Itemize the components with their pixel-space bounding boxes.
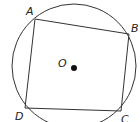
quadrilateral-abcd — [25, 19, 129, 111]
label-c: C — [121, 113, 129, 122]
label-b: B — [131, 22, 139, 35]
circle-diagram: O A B C D — [0, 0, 140, 122]
center-point — [71, 65, 77, 71]
label-o: O — [58, 57, 67, 70]
label-a: A — [25, 5, 34, 18]
label-d: D — [15, 110, 23, 122]
circle — [12, 4, 136, 122]
